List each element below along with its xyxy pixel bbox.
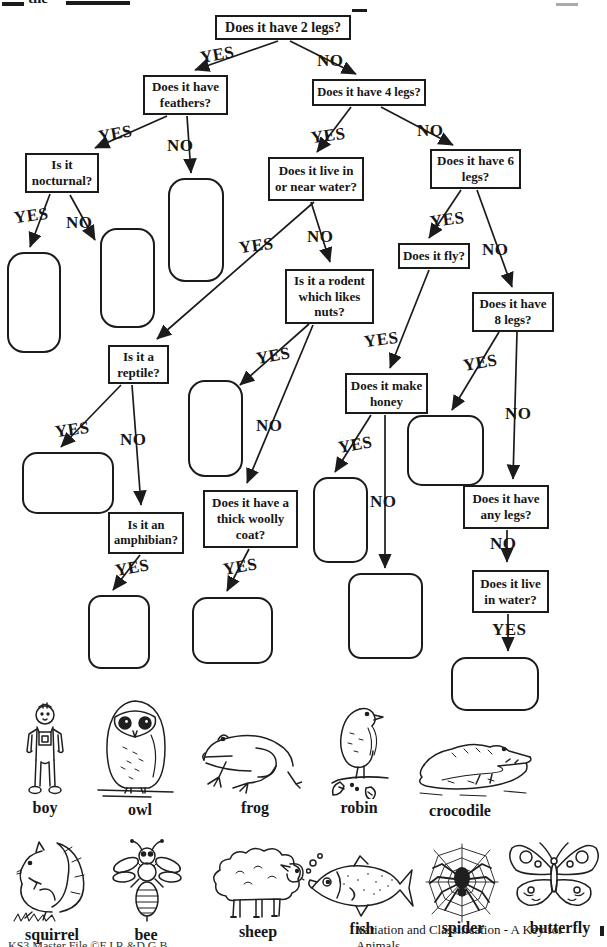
label-no-2legs: NO: [317, 51, 344, 71]
question-box-make-honey: Does it make honey: [345, 373, 428, 414]
arrow-6legs-no: [477, 190, 512, 287]
answer-box-feathers-no: [168, 178, 224, 282]
label-no-honey: NO: [370, 492, 397, 512]
question-box-in-water: Does it live in water?: [472, 570, 549, 613]
question-box-4-legs: Does it have 4 legs?: [312, 79, 426, 106]
question-box-reptile: Is it a reptile?: [108, 345, 169, 384]
label-yes-inwater: YES: [492, 620, 527, 640]
frog-illustration: [196, 726, 302, 794]
question-text: Does it have any legs?: [467, 491, 545, 523]
question-text: Is it nocturnal?: [29, 157, 95, 189]
footer-credit-text: KS3 Master File ©F.J.R.&D.G.B: [8, 939, 168, 947]
question-box-nocturnal: Is it nocturnal?: [25, 153, 99, 193]
owl-illustration: [93, 697, 178, 799]
question-box-8-legs: Does it have 8 legs?: [472, 292, 554, 332]
worksheet-page: the: [0, 0, 607, 947]
question-box-fly: Does it fly?: [398, 243, 470, 269]
animal-label-robin: robin: [332, 799, 386, 817]
answer-box-nocturnal-yes: [7, 252, 61, 353]
answer-box-woolly-yes: [192, 597, 273, 664]
arrow-fly-yes: [390, 270, 429, 368]
animal-label-frog: frog: [230, 799, 280, 817]
question-text: Does it have 2 legs?: [225, 19, 341, 36]
animal-label-boy: boy: [22, 799, 68, 817]
crocodile-illustration: [412, 735, 536, 799]
label-no-6legs: NO: [482, 240, 509, 260]
label-no-4legs: NO: [417, 121, 444, 141]
animal-label-sheep: sheep: [228, 923, 288, 941]
question-box-6-legs: Does it have 6 legs?: [430, 149, 521, 189]
label-no-nocturnal: NO: [66, 213, 93, 233]
answer-box-nocturnal-no: [100, 228, 155, 328]
question-box-2-legs: Does it have 2 legs?: [215, 15, 351, 40]
question-text: Does it have 4 legs?: [317, 85, 420, 100]
question-text: Does it live in or near water?: [272, 163, 360, 195]
label-no-8legs: NO: [505, 404, 532, 424]
footer-title: Variation and Classification - A Key for…: [356, 922, 607, 947]
bee-illustration: [112, 838, 182, 922]
question-box-any-legs: Does it have any legs?: [463, 485, 549, 529]
answer-box-honey-no: [348, 573, 423, 659]
question-text: Does it fly?: [403, 248, 465, 264]
question-box-woolly-coat: Does it have a thick woolly coat?: [203, 490, 298, 548]
answer-box-rodent-yes: [188, 380, 243, 477]
label-no-feathers: NO: [167, 136, 194, 156]
question-text: Is it an amphibian?: [112, 518, 180, 549]
answer-box-8legs-yes: [407, 415, 484, 486]
label-no-reptile: NO: [120, 430, 147, 450]
sheep-illustration: [206, 838, 306, 922]
label-no-anylegs: NO: [490, 534, 517, 554]
question-text: Does it have feathers?: [147, 79, 224, 111]
answer-box-inwater-yes: [451, 657, 539, 711]
robin-illustration: [326, 703, 392, 799]
question-text: Does it live in water?: [476, 576, 545, 608]
answer-box-honey-yes: [313, 477, 368, 563]
footer-credit-cropped: KS3 Master File ©F.J.R.&D.G.B: [8, 939, 168, 947]
label-no-nearwater: NO: [307, 227, 334, 247]
question-box-amphibian: Is it an amphibian?: [108, 512, 184, 554]
label-no-rodent: NO: [256, 416, 283, 436]
question-text: Is it a rodent which likes nuts?: [289, 273, 370, 321]
page-number-fragment: [600, 926, 604, 936]
spider-illustration: [424, 842, 500, 926]
question-text: Does it make honey: [349, 378, 424, 410]
butterfly-illustration: [504, 830, 604, 918]
animal-label-crocodile: crocodile: [420, 802, 500, 820]
answer-box-reptile-yes: [22, 452, 114, 514]
question-box-near-water: Does it live in or near water?: [268, 157, 364, 201]
answer-box-amphibian-yes: [88, 595, 150, 669]
fish-illustration: [306, 850, 422, 922]
question-text: Does it have 8 legs?: [476, 296, 550, 328]
boy-illustration: [20, 702, 70, 798]
question-text: Does it have 6 legs?: [434, 153, 517, 185]
question-text: Does it have a thick woolly coat?: [207, 495, 294, 543]
animal-label-owl: owl: [115, 801, 165, 819]
question-box-feathers: Does it have feathers?: [143, 75, 228, 115]
question-text: Is it a reptile?: [112, 349, 165, 381]
question-box-rodent: Is it a rodent which likes nuts?: [285, 269, 374, 324]
squirrel-illustration: [12, 832, 92, 925]
